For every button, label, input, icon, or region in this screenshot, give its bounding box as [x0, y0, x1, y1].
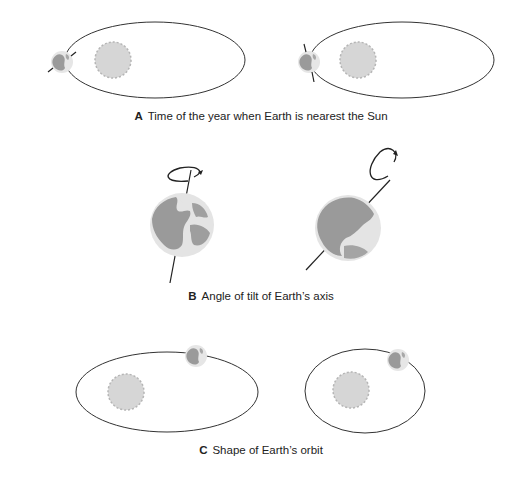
earth-icon [150, 193, 214, 257]
caption-b: BAngle of tilt of Earth’s axis [0, 290, 522, 302]
earth-icon [298, 44, 320, 82]
earth-icon [387, 349, 409, 371]
caption-a-text: Time of the year when Earth is nearest t… [148, 110, 388, 122]
orbit-ellipse [65, 22, 245, 98]
panel-a [48, 22, 494, 98]
panel-a-right-diagram [298, 22, 494, 98]
caption-a: ATime of the year when Earth is nearest … [0, 110, 522, 122]
caption-a-letter: A [134, 110, 142, 122]
earth-icon [48, 51, 76, 73]
sun-icon [333, 372, 369, 408]
earth-icon [315, 195, 381, 261]
caption-c: CShape of Earth’s orbit [0, 444, 522, 456]
sun-icon [108, 374, 144, 410]
panel-c [76, 345, 425, 433]
sun-icon [95, 42, 131, 78]
caption-b-letter: B [188, 290, 196, 302]
caption-c-letter: C [199, 444, 207, 456]
panel-b-right-globe [306, 149, 398, 270]
panel-a-left-diagram [48, 22, 245, 98]
orbit-ellipse [310, 22, 494, 98]
earth-icon [185, 345, 207, 367]
panel-c-left-diagram [76, 345, 258, 432]
panel-c-right-diagram [305, 349, 425, 433]
rotation-arrow-icon [168, 167, 200, 181]
diagram-canvas [0, 0, 522, 483]
orbit-ellipse [76, 352, 258, 432]
panel-b [150, 149, 398, 283]
caption-c-text: Shape of Earth’s orbit [212, 444, 322, 456]
rotation-arrow-icon [370, 149, 396, 180]
panel-b-left-globe [150, 167, 214, 283]
sun-icon [340, 42, 376, 78]
caption-b-text: Angle of tilt of Earth’s axis [202, 290, 334, 302]
